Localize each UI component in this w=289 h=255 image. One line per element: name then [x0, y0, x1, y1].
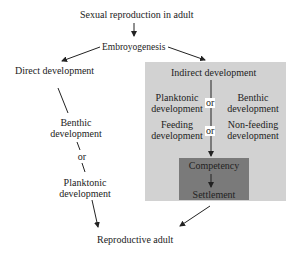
indirect-nonfeeding-label: Non-feedingdevelopment — [222, 119, 284, 141]
arrow-embryo-to-indirect — [168, 47, 205, 60]
indirect-benthic-label: Benthicdevelopment — [222, 92, 284, 114]
line-or-planktonic — [82, 163, 85, 172]
indirect-feeding-label: Feedingdevelopment — [148, 119, 206, 141]
sexual-reproduction-label: Sexual reproduction in adult — [80, 9, 194, 20]
indirect-or-1: or — [205, 98, 215, 108]
settlement-label: Settlement — [179, 189, 249, 200]
competency-label: Competency — [179, 160, 249, 171]
arrow-planktonic-to-adult — [92, 200, 98, 227]
embryogenesis-label: Embroyogenesis — [102, 42, 165, 53]
reproductive-adult-label: Reproductive adult — [97, 234, 173, 245]
direct-benthic-label: Benthicdevelopment — [44, 117, 108, 139]
line-direct-to-benthic — [58, 88, 68, 113]
indirect-or-2: or — [205, 126, 215, 136]
direct-development-label: Direct development — [15, 65, 94, 76]
indirect-planktonic-label: Planktonicdevelopment — [148, 92, 206, 114]
arrow-settlement-to-adult — [180, 206, 210, 226]
arrow-embryo-to-direct — [62, 47, 100, 61]
line-benthic-or — [77, 142, 80, 150]
direct-planktonic-label: Planktonicdevelopment — [52, 177, 118, 199]
indirect-development-label: Indirect development — [171, 67, 256, 78]
direct-or-label: or — [72, 151, 92, 162]
